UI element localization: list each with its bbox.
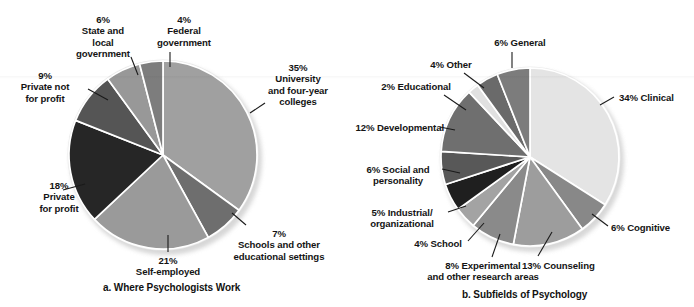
label-social-and-personality: 6% Social andpersonality xyxy=(348,164,448,187)
label-state-and-local-government: 6%State andlocalgovernment xyxy=(55,14,151,60)
label-industrial-organizational: 5% Industrial/organizational xyxy=(352,207,452,230)
label-developmental: 12% Developmental xyxy=(336,122,444,133)
label-counseling: 13% Counseling xyxy=(522,260,634,271)
label-federal-government: 4%Federalgovernment xyxy=(144,14,224,48)
leader-line xyxy=(464,73,484,88)
label-schools-and-other-educational-settings: 7%Schools and othereducational settings xyxy=(216,228,342,262)
label-educational: 2% Educational xyxy=(368,81,464,92)
pie-chart-figure: 6%State andlocalgovernment 4%Federalgove… xyxy=(0,0,694,307)
caption-chart-a: a. Where Psychologists Work xyxy=(103,282,240,293)
label-self-employed: 21%Self-employed xyxy=(120,255,216,278)
pie-a-slices xyxy=(68,60,259,251)
caption-chart-b: b. Subfields of Psychology xyxy=(462,289,587,300)
label-private-not-for-profit: 9%Private notfor profit xyxy=(2,70,88,104)
label-other: 4% Other xyxy=(416,59,486,70)
label-clinical: 34% Clinical xyxy=(619,92,694,103)
label-university-and-four-year-colleges: 35%Universityand four-yearcolleges xyxy=(250,62,346,108)
label-cognitive: 6% Cognitive xyxy=(611,222,694,233)
label-private-for-profit: 18%Privatefor profit xyxy=(22,180,96,214)
pie-b-slices xyxy=(440,67,621,248)
label-general: 6% General xyxy=(478,37,562,48)
label-school: 4% School xyxy=(400,238,476,249)
leader-line xyxy=(600,97,614,105)
